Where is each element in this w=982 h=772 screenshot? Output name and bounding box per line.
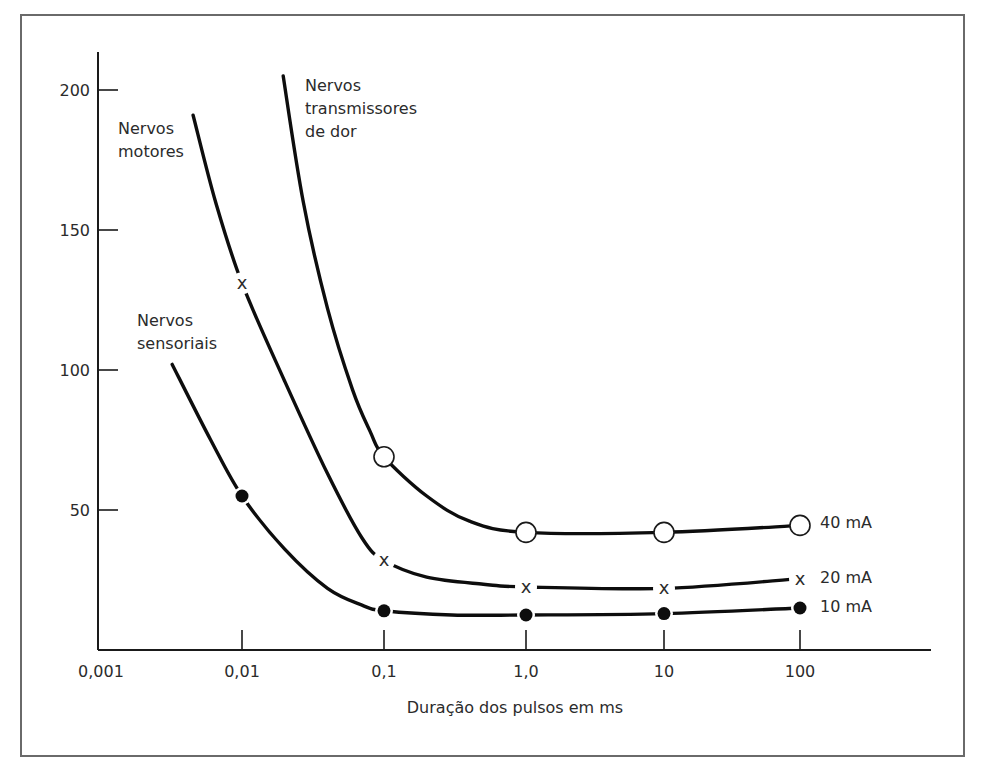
- open-circle-marker: [790, 515, 810, 535]
- y-axis-ticks: 50100150200: [59, 81, 118, 520]
- curve-label-pain: Nervos: [305, 76, 361, 95]
- y-tick-label: 100: [59, 361, 90, 380]
- end-label-sensory: 10 mA: [820, 597, 872, 616]
- y-tick-label: 150: [59, 221, 90, 240]
- filled-circle-marker: [236, 490, 249, 503]
- x-tick-label: 0,1: [371, 662, 396, 681]
- y-tick-label: 50: [70, 501, 90, 520]
- filled-circle-marker: [658, 607, 671, 620]
- x-tick-label: 0,001: [78, 662, 124, 681]
- y-tick-label: 200: [59, 81, 90, 100]
- filled-circle-marker: [520, 609, 533, 622]
- curve-label-pain: transmissores: [305, 99, 417, 118]
- x-marker: x: [795, 568, 806, 589]
- x-marker: x: [379, 549, 390, 570]
- nerve-strength-duration-chart: 50100150200 0,0010,010,11,010100 xxxxx N…: [0, 0, 982, 772]
- curves-layer: [172, 76, 800, 615]
- open-circle-marker: [374, 447, 394, 467]
- markers-layer: xxxxx: [231, 272, 811, 624]
- filled-circle-marker: [794, 602, 807, 615]
- x-marker: x: [237, 272, 248, 293]
- series-end-labels: 40 mA20 mA10 mA: [820, 513, 872, 616]
- curve-label-motor: motores: [118, 142, 184, 161]
- end-label-pain: 40 mA: [820, 513, 872, 532]
- curve-labels-layer: Nervostransmissoresde dorNervosmotoresNe…: [118, 76, 417, 353]
- curve-label-pain: de dor: [305, 122, 357, 141]
- x-marker: x: [659, 577, 670, 598]
- end-label-motor: 20 mA: [820, 568, 872, 587]
- x-tick-label: 0,01: [224, 662, 260, 681]
- curve-sensory: [172, 364, 800, 615]
- curve-label-motor: Nervos: [118, 119, 174, 138]
- filled-circle-marker: [378, 604, 391, 617]
- open-circle-marker: [516, 522, 536, 542]
- x-tick-label: 10: [654, 662, 674, 681]
- x-marker: x: [521, 576, 532, 597]
- open-circle-marker: [654, 522, 674, 542]
- curve-motor: [193, 115, 800, 589]
- x-tick-label: 100: [785, 662, 816, 681]
- curve-label-sensory: sensoriais: [137, 334, 217, 353]
- x-axis-title: Duração dos pulsos em ms: [407, 698, 623, 717]
- curve-pain: [283, 76, 800, 534]
- x-axis-ticks: 0,0010,010,11,010100: [78, 630, 815, 681]
- x-tick-label: 1,0: [513, 662, 538, 681]
- curve-label-sensory: Nervos: [137, 311, 193, 330]
